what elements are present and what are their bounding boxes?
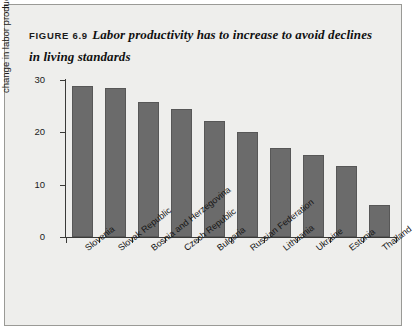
y-tick — [60, 185, 66, 186]
figure-caption: FIGURE 6.9 Labor productivity has to inc… — [29, 23, 379, 66]
y-tick-label: 10 — [5, 179, 45, 190]
y-tick — [60, 80, 66, 81]
y-axis-line — [65, 79, 66, 238]
figure-label: FIGURE 6.9 — [29, 30, 88, 41]
figure-frame: FIGURE 6.9 Labor productivity has to inc… — [4, 4, 402, 326]
y-tick — [60, 132, 66, 133]
y-tick-label: 0 — [5, 231, 45, 242]
y-tick-label: 30 — [5, 74, 45, 85]
x-tick — [66, 238, 67, 243]
bar — [105, 88, 125, 237]
bar — [72, 86, 92, 237]
bar — [237, 132, 257, 237]
y-tick-label: 20 — [5, 126, 45, 137]
